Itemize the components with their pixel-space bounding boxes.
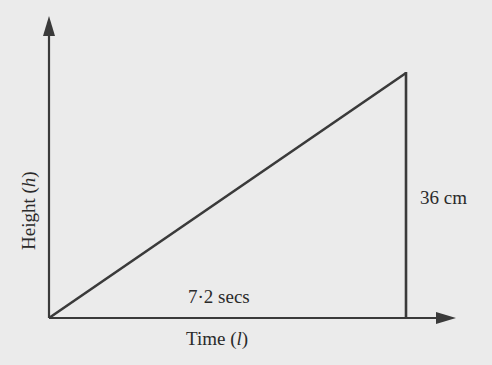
y-axis-arrow-icon — [43, 16, 55, 36]
x-axis-label: Time (l) — [186, 328, 248, 350]
x-axis-arrow-icon — [436, 312, 456, 324]
base-value-label: 7·2 secs — [188, 286, 250, 307]
y-axis-label: Height (h) — [18, 171, 40, 250]
height-value-label: 36 cm — [420, 187, 467, 208]
hypotenuse-line — [49, 73, 406, 318]
triangle-diagram: 36 cm 7·2 secs Time (l) Height (h) — [0, 0, 492, 365]
